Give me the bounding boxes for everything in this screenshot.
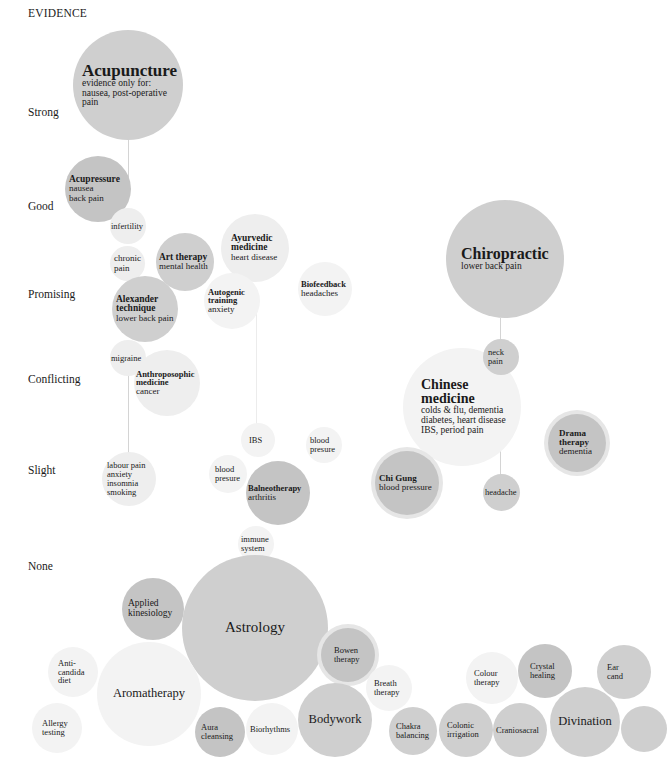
level-conflicting: Conflicting: [28, 373, 80, 385]
bubble-label: Biorhythms: [250, 725, 298, 734]
bubble-drama-therapy[interactable]: Drama therapy dementia: [548, 414, 606, 472]
bubble-ayurvedic-medicine[interactable]: Ayurvedic medicine heart disease: [221, 214, 289, 282]
bubble-divination[interactable]: Divination: [550, 687, 620, 757]
bubble-label: balancing: [396, 731, 437, 740]
bubble-biofeedback[interactable]: Biofeedback headaches: [298, 262, 352, 316]
bubble-condition: headaches: [301, 289, 352, 298]
bubble-astrology[interactable]: Astrology: [182, 555, 328, 701]
bubble-label: Bodywork: [309, 713, 362, 726]
bubble-condition: cancer: [136, 387, 200, 396]
bubble-crystal-healing[interactable]: Crystal healing: [518, 644, 572, 698]
bubble-label: cleansing: [201, 732, 245, 741]
bubble-aura-cleansing[interactable]: Aura cleansing: [195, 707, 245, 757]
bubble-headache[interactable]: headache: [483, 474, 520, 511]
connector-acupuncture-lower: [128, 370, 129, 465]
bubble-condition: dementia: [559, 447, 606, 456]
level-none: None: [28, 560, 53, 572]
bubble-bodywork[interactable]: Bodywork: [298, 683, 372, 757]
bubble-label: therapy: [374, 688, 412, 697]
bubble-label: therapy: [474, 678, 518, 687]
bubble-applied-kinesiology[interactable]: Applied kinesiology: [122, 578, 184, 640]
bubble-condition: heart disease: [231, 253, 289, 262]
bubble-condition: lower back pain: [116, 314, 178, 323]
bubble-label: Craniosacral: [496, 726, 547, 735]
bubble-label: headache: [485, 488, 520, 497]
y-axis-title: EVIDENCE: [28, 7, 87, 19]
bubble-condition: IBS, period pain: [421, 426, 521, 436]
bubble-chakra-balancing[interactable]: Chakra balancing: [389, 707, 437, 755]
bubble-bowen-therapy[interactable]: Bowen therapy: [321, 628, 375, 682]
bubble-condition: anxiety: [208, 305, 260, 314]
bubble-label: system: [241, 544, 274, 553]
bubble-label: healing: [530, 671, 572, 680]
bubble-label: kinesiology: [128, 609, 184, 619]
bubble-title: Chiropractic: [461, 246, 564, 262]
bubble-ear-candling[interactable]: Ear cand: [597, 645, 651, 699]
bubble-title: medicine: [421, 392, 521, 406]
bubble-chiropractic[interactable]: Chiropractic lower back pain: [446, 200, 564, 318]
bubble-label: pain: [114, 264, 145, 273]
bubble-chi-gung[interactable]: Chi Gung blood pressure: [375, 451, 439, 515]
bubble-title: Chinese: [421, 378, 521, 392]
bubble-labour-pain[interactable]: labour pain anxiety insomnia smoking: [102, 452, 156, 506]
bubble-label: smoking: [107, 488, 156, 497]
bubble-condition: blood pressure: [379, 483, 439, 492]
bubble-blood-pressure-biofeedback[interactable]: blood presure: [306, 427, 342, 463]
bubble-label: presure: [310, 445, 342, 454]
bubble-anthroposophic-medicine[interactable]: Anthroposophic medicine cancer: [134, 350, 200, 416]
bubble-alexander-technique[interactable]: Alexander technique lower back pain: [112, 276, 178, 342]
bubble-neck-pain[interactable]: neck pain: [483, 339, 519, 375]
bubble-ibs[interactable]: IBS: [241, 423, 275, 457]
bubble-balneotherapy[interactable]: Balneotherapy arthritis: [246, 461, 310, 525]
bubble-condition: pain: [82, 98, 183, 108]
bubble-allergy-testing[interactable]: Allergy testing: [32, 703, 82, 753]
bubble-autogenic-training[interactable]: Autogenic training anxiety: [204, 273, 260, 329]
bubble-label: presure: [215, 474, 247, 483]
level-good: Good: [28, 200, 54, 212]
bubble-label: infertility: [111, 222, 146, 231]
bubble-colonic-irrigation[interactable]: Colonic irrigation: [439, 703, 493, 757]
bubble-biorhythms[interactable]: Biorhythms: [246, 703, 298, 755]
bubble-label: Divination: [558, 715, 611, 728]
bubble-label: irrigation: [447, 730, 493, 739]
bubble-breath-therapy[interactable]: Breath therapy: [366, 665, 412, 711]
bubble-label: Aromatherapy: [113, 687, 185, 700]
bubble-label: testing: [42, 728, 82, 737]
level-slight: Slight: [28, 464, 55, 476]
bubble-title: Acupuncture: [82, 62, 183, 79]
bubble-aromatherapy[interactable]: Aromatherapy: [97, 642, 201, 746]
level-strong: Strong: [28, 106, 59, 118]
bubble-condition: back pain: [69, 194, 131, 203]
bubble-condition: lower back pain: [461, 262, 564, 272]
bubble-infertility[interactable]: infertility: [110, 208, 146, 244]
bubble-label: cand: [607, 672, 651, 681]
bubble-condition: arthritis: [248, 493, 310, 502]
bubble-colour-therapy[interactable]: Colour therapy: [466, 652, 518, 704]
bubble-craniosacral[interactable]: Craniosacral: [493, 703, 547, 757]
bubble-label: IBS: [249, 436, 275, 445]
bubble-anti-candida-diet[interactable]: Anti- candida diet: [48, 647, 98, 697]
bubble-label: pain: [488, 357, 519, 366]
bubble-offscreen-right: [621, 706, 667, 752]
bubble-label: Astrology: [225, 620, 285, 636]
bubble-label: therapy: [334, 655, 375, 664]
level-promising: Promising: [28, 288, 75, 300]
bubble-acupuncture[interactable]: Acupuncture evidence only for: nausea, p…: [73, 30, 183, 140]
bubble-condition: mental health: [159, 262, 214, 271]
bubble-label: diet: [58, 676, 98, 685]
bubble-blood-pressure-autogenic[interactable]: blood presure: [209, 455, 247, 493]
